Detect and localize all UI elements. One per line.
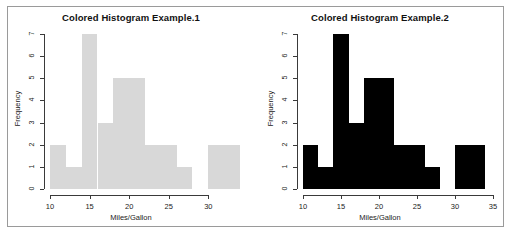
x-axis-tick [303, 195, 304, 199]
bar-series-example-2 [303, 34, 493, 189]
plot-area-example-1 [50, 34, 240, 189]
y-axis-tick-label: 4 [28, 94, 35, 106]
y-axis-title-example-2: Frequency [266, 79, 275, 139]
y-axis-tick [293, 145, 297, 146]
y-axis-tick-label: 7 [281, 28, 288, 40]
x-axis-title-example-1: Miles/Gallon [7, 213, 255, 222]
bar-series-example-1 [50, 34, 240, 189]
y-axis-tick-label: 6 [28, 50, 35, 62]
y-axis-tick [293, 167, 297, 168]
y-axis-tick-label: 4 [281, 94, 288, 106]
histogram-bar [208, 145, 224, 189]
x-axis-tick [493, 195, 494, 199]
histogram-figure: Colored Histogram Example.1 Frequency Mi… [0, 0, 511, 234]
x-axis-tick-label: 30 [199, 202, 217, 211]
chart-panel-example-2: Colored Histogram Example.2 Frequency Mi… [256, 6, 504, 227]
x-axis-tick-label: 35 [484, 202, 502, 211]
y-axis-line [297, 34, 298, 189]
histogram-bar [113, 78, 129, 189]
x-axis-title-example-2: Miles/Gallon [256, 213, 504, 222]
x-axis-tick [208, 195, 209, 199]
x-axis-tick [455, 195, 456, 199]
y-axis-tick-label: 1 [281, 160, 288, 172]
y-axis-tick [293, 123, 297, 124]
x-axis-tick-label: 25 [160, 202, 178, 211]
histogram-bar [333, 34, 348, 189]
y-axis-tick [293, 34, 297, 35]
y-axis-tick-label: 5 [281, 72, 288, 84]
histogram-bar [50, 145, 66, 189]
y-axis-tick [40, 34, 44, 35]
y-axis-tick [293, 78, 297, 79]
histogram-bar [379, 78, 394, 189]
x-axis-tick [169, 195, 170, 199]
histogram-bar [364, 78, 379, 189]
x-axis-tick-label: 10 [294, 202, 312, 211]
histogram-bar [349, 123, 364, 189]
histogram-bar [98, 123, 114, 189]
histogram-bar [177, 167, 193, 189]
y-axis-tick [40, 189, 44, 190]
y-axis-tick-label: 1 [28, 160, 35, 172]
y-axis-tick [40, 123, 44, 124]
y-axis-tick [40, 56, 44, 57]
y-axis-tick [40, 167, 44, 168]
x-axis-tick [90, 195, 91, 199]
y-axis-tick-label: 2 [281, 138, 288, 150]
y-axis-title-example-1: Frequency [13, 79, 22, 139]
histogram-bar [425, 167, 440, 189]
histogram-bar [409, 145, 424, 189]
y-axis-tick-label: 7 [28, 28, 35, 40]
histogram-bar [129, 78, 145, 189]
y-axis-tick [40, 78, 44, 79]
y-axis-tick-label: 0 [28, 183, 35, 195]
chart-title-example-2: Colored Histogram Example.2 [256, 12, 504, 23]
x-axis-tick-label: 20 [120, 202, 138, 211]
y-axis-tick [293, 56, 297, 57]
histogram-bar [224, 145, 240, 189]
x-axis-tick-label: 30 [446, 202, 464, 211]
x-axis-tick-label: 25 [408, 202, 426, 211]
y-axis-tick-label: 6 [281, 50, 288, 62]
y-axis-tick [40, 100, 44, 101]
x-axis-tick [50, 195, 51, 199]
x-axis-tick [417, 195, 418, 199]
y-axis-tick [293, 189, 297, 190]
y-axis-tick-label: 3 [28, 116, 35, 128]
histogram-bar [82, 34, 98, 189]
x-axis-line [303, 195, 493, 196]
histogram-bar [455, 145, 470, 189]
y-axis-tick-label: 5 [28, 72, 35, 84]
chart-title-example-1: Colored Histogram Example.1 [7, 12, 255, 23]
histogram-bar [161, 145, 177, 189]
x-axis-tick-label: 15 [81, 202, 99, 211]
x-axis-tick-label: 20 [370, 202, 388, 211]
y-axis-tick [40, 145, 44, 146]
histogram-bar [318, 167, 333, 189]
x-axis-tick [341, 195, 342, 199]
histogram-bar [145, 145, 161, 189]
histogram-bar [394, 145, 409, 189]
y-axis-tick-label: 2 [28, 138, 35, 150]
y-axis-tick-label: 3 [281, 116, 288, 128]
histogram-bar [303, 145, 318, 189]
x-axis-tick-label: 10 [41, 202, 59, 211]
x-axis-tick [129, 195, 130, 199]
histogram-bar [470, 145, 485, 189]
histogram-bar [66, 167, 82, 189]
y-axis-line [44, 34, 45, 189]
chart-panel-example-1: Colored Histogram Example.1 Frequency Mi… [7, 6, 255, 227]
y-axis-tick [293, 100, 297, 101]
x-axis-tick-label: 15 [332, 202, 350, 211]
plot-area-example-2 [303, 34, 493, 189]
y-axis-tick-label: 0 [281, 183, 288, 195]
x-axis-tick [379, 195, 380, 199]
